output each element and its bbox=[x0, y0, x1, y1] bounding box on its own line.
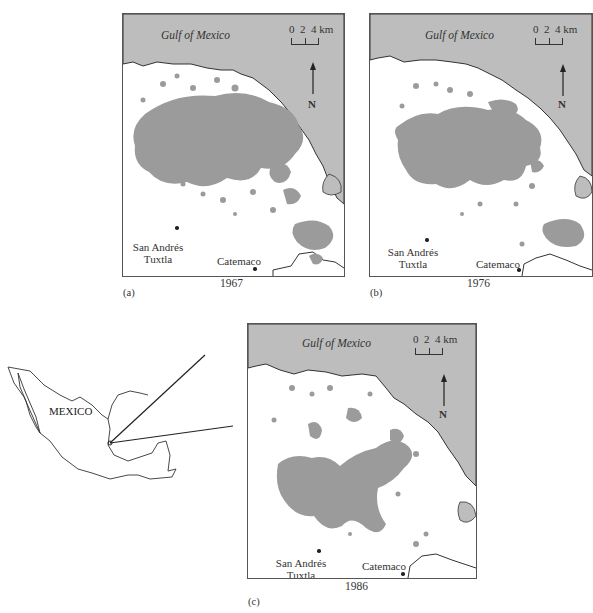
scale-bar: 0 2 4 km bbox=[533, 23, 577, 35]
scale-bar-line bbox=[535, 38, 563, 45]
city-marker-catemaco bbox=[401, 572, 405, 576]
city-marker-san-andres bbox=[317, 549, 321, 553]
map-panel-1967: Gulf of Mexico 0 2 4 km N San Andrés Tux… bbox=[122, 13, 345, 277]
scale-bar-line bbox=[291, 38, 319, 45]
city-label-san-andres: San Andrés Tuxtla bbox=[268, 557, 334, 579]
year-label-1986: 1986 bbox=[345, 580, 368, 592]
mexico-locator-map bbox=[0, 345, 240, 485]
panel-label-c: (c) bbox=[248, 596, 260, 607]
forest-patches bbox=[272, 385, 429, 547]
us-border-outline bbox=[108, 391, 148, 419]
scale-tick-4: 4 bbox=[555, 23, 561, 35]
city-marker-san-andres bbox=[425, 238, 429, 242]
map-graphic-1967 bbox=[123, 14, 344, 276]
scale-bar-line bbox=[415, 348, 443, 355]
map-panel-1976: Gulf of Mexico 0 2 4 km N San Andrés Tux… bbox=[369, 13, 593, 277]
lagoon bbox=[575, 176, 592, 198]
mexico-outline bbox=[8, 367, 176, 479]
north-label: N bbox=[558, 98, 566, 110]
sea-label: Gulf of Mexico bbox=[425, 29, 494, 41]
sea-label: Gulf of Mexico bbox=[302, 337, 371, 349]
scale-bar: 0 2 4 km bbox=[413, 333, 457, 345]
city-marker-catemaco bbox=[517, 268, 521, 272]
scale-tick-2: 2 bbox=[300, 23, 306, 35]
map-graphic-1976 bbox=[370, 14, 592, 276]
scale-unit: km bbox=[563, 23, 577, 35]
city-label-catemaco: Catemaco bbox=[362, 560, 406, 572]
scale-unit: km bbox=[443, 333, 457, 345]
lake-catemaco-shore bbox=[408, 554, 476, 578]
north-label: N bbox=[308, 98, 316, 110]
scale-tick-2: 2 bbox=[424, 333, 430, 345]
scale-unit: km bbox=[319, 23, 333, 35]
scale-tick-0: 0 bbox=[413, 333, 419, 345]
north-arrow-icon bbox=[308, 62, 318, 94]
scale-bar: 0 2 4 km bbox=[289, 23, 333, 35]
city-label-catemaco: Catemaco bbox=[476, 258, 520, 270]
country-label-mexico: MEXICO bbox=[49, 405, 92, 417]
city-marker-catemaco bbox=[253, 267, 257, 271]
map-graphic-1986 bbox=[248, 324, 476, 578]
north-label: N bbox=[439, 408, 447, 420]
lake-catemaco-shore bbox=[273, 252, 344, 276]
north-arrow-icon bbox=[439, 374, 449, 406]
scale-tick-4: 4 bbox=[435, 333, 441, 345]
city-label-san-andres: San Andrés Tuxtla bbox=[380, 246, 446, 270]
panel-label-b: (b) bbox=[370, 287, 382, 298]
map-panel-1986: Gulf of Mexico 0 2 4 km N San Andrés Tux… bbox=[247, 323, 477, 579]
baja-california-outline bbox=[18, 373, 40, 433]
city-marker-san-andres bbox=[175, 226, 179, 230]
pointer-line-lower bbox=[110, 426, 233, 443]
scale-tick-4: 4 bbox=[311, 23, 317, 35]
scale-tick-2: 2 bbox=[544, 23, 550, 35]
city-label-catemaco: Catemaco bbox=[217, 255, 261, 267]
panel-label-a: (a) bbox=[123, 287, 135, 298]
year-label-1967: 1967 bbox=[220, 277, 243, 289]
lake-catemaco-shore bbox=[522, 254, 592, 276]
pointer-line-upper bbox=[110, 355, 205, 443]
scale-tick-0: 0 bbox=[289, 23, 295, 35]
city-label-san-andres: San Andrés Tuxtla bbox=[125, 241, 191, 265]
year-label-1976: 1976 bbox=[467, 277, 490, 289]
scale-tick-0: 0 bbox=[533, 23, 539, 35]
sea-label: Gulf of Mexico bbox=[161, 29, 230, 41]
north-arrow-icon bbox=[558, 64, 568, 96]
lagoon bbox=[458, 502, 476, 522]
